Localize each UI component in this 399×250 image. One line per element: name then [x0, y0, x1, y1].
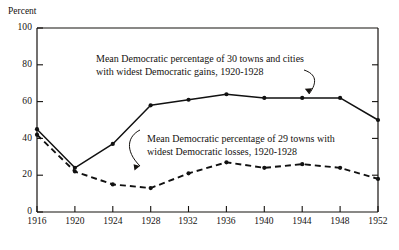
- x-tick-label-1920: 1920: [55, 216, 95, 226]
- data-point: [149, 186, 153, 190]
- x-tick-label-1928: 1928: [131, 216, 171, 226]
- chart-figure: Percent: [0, 0, 399, 250]
- data-point: [73, 169, 77, 173]
- annotation-leader-gains: [304, 70, 315, 94]
- data-point: [111, 182, 115, 186]
- data-point: [376, 118, 380, 122]
- annotation-losses-line2: widest Democratic losses, 1920-1928: [147, 146, 335, 159]
- data-point: [300, 96, 304, 100]
- y-tick-label-0: 0: [8, 206, 32, 216]
- data-point: [224, 92, 228, 96]
- series-markers-gains: [35, 92, 380, 170]
- x-tick-label-1932: 1932: [168, 216, 208, 226]
- line-chart-plot: [0, 0, 399, 250]
- annotation-gains: Mean Democratic percentage of 30 towns a…: [96, 53, 304, 78]
- x-tick-label-1952: 1952: [358, 216, 398, 226]
- x-tick-label-1940: 1940: [244, 216, 284, 226]
- y-tick-label-80: 80: [8, 59, 32, 69]
- y-tick-label-40: 40: [8, 133, 32, 143]
- data-point: [376, 177, 380, 181]
- data-point: [262, 96, 266, 100]
- data-point: [35, 127, 39, 131]
- data-point: [262, 166, 266, 170]
- data-point: [338, 96, 342, 100]
- x-tick-label-1924: 1924: [93, 216, 133, 226]
- x-axis-ticks: [37, 206, 378, 212]
- data-point: [224, 160, 228, 164]
- data-point: [300, 162, 304, 166]
- data-point: [338, 166, 342, 170]
- y-tick-label-20: 20: [8, 169, 32, 179]
- data-point: [186, 98, 190, 102]
- annotation-losses: Mean Democratic percentage of 29 towns w…: [147, 133, 335, 158]
- data-point: [149, 103, 153, 107]
- x-tick-label-1948: 1948: [320, 216, 360, 226]
- annotation-gains-line1: Mean Democratic percentage of 30 towns a…: [96, 53, 304, 66]
- x-tick-label-1916: 1916: [17, 216, 57, 226]
- x-tick-label-1944: 1944: [282, 216, 322, 226]
- annotation-gains-line2: with widest Democratic gains, 1920-1928: [96, 66, 304, 79]
- annotation-losses-line1: Mean Democratic percentage of 29 towns w…: [147, 133, 335, 146]
- data-point: [35, 133, 39, 137]
- y-tick-label-100: 100: [8, 22, 32, 32]
- x-tick-label-1936: 1936: [206, 216, 246, 226]
- data-point: [111, 142, 115, 146]
- data-point: [186, 171, 190, 175]
- y-tick-label-60: 60: [8, 96, 32, 106]
- annotation-leader-losses: [129, 130, 140, 170]
